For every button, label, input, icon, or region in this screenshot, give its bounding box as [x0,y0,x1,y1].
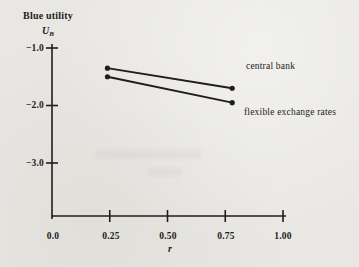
y-tick-label: −2.0 [12,99,44,111]
series-label-flexible-exchange-rates: flexible exchange rates [244,107,336,117]
y-tick-label: −1.0 [12,42,44,54]
y-tick-label: −3.0 [12,157,44,169]
data-point [230,100,235,105]
series-label-central-bank: central bank [246,61,295,71]
y-axis-symbol-subscript: B [49,30,54,38]
data-point [105,66,110,71]
scanned-figure-page: Blue utility UB −1.0 −2.0 −3.0 0.0 0.25 … [0,0,359,267]
y-axis-symbol: UB [18,25,78,38]
x-tick-label: 0.25 [96,230,126,242]
series-line-0 [107,68,232,88]
data-point [230,86,235,91]
utility-chart-plot [0,0,359,267]
x-axis-label: r [162,243,178,254]
y-axis-title: Blue utility [18,10,78,22]
data-point [105,74,110,79]
series-line-1 [107,77,232,103]
x-tick-label: 0.50 [153,230,183,242]
x-tick-label: 0.0 [38,230,68,242]
x-tick-label: 1.00 [268,230,298,242]
x-tick-label: 0.75 [211,230,241,242]
